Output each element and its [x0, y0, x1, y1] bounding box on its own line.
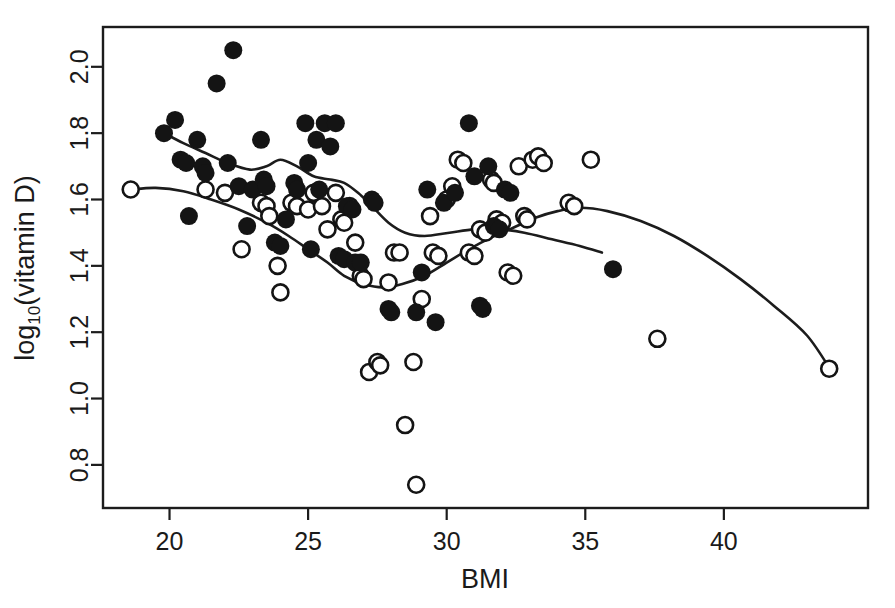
data-point-open: [347, 235, 363, 251]
data-point-filled: [177, 154, 195, 172]
data-point-open: [314, 198, 330, 214]
data-point-open: [198, 182, 214, 198]
data-point-open: [356, 271, 372, 287]
data-point-open: [372, 357, 388, 373]
data-point-filled: [219, 154, 237, 172]
data-point-open: [583, 152, 599, 168]
data-point-filled: [460, 114, 478, 132]
data-point-filled: [310, 181, 328, 199]
data-point-filled: [366, 194, 384, 212]
data-point-open: [466, 248, 482, 264]
x-axis-title: BMI: [461, 564, 509, 594]
x-tick-label-40: 40: [710, 527, 738, 555]
y-tick-label-1.8: 1.8: [65, 116, 93, 151]
data-point-open: [320, 221, 336, 237]
data-point-filled: [446, 184, 464, 202]
data-point-filled: [413, 263, 431, 281]
data-point-filled: [166, 111, 184, 129]
data-point-filled: [238, 217, 256, 235]
x-tick-label-20: 20: [156, 527, 184, 555]
y-axis-tick-labels: 0.81.01.21.41.61.82.0: [65, 49, 93, 482]
data-point-filled: [296, 114, 314, 132]
data-point-open: [422, 208, 438, 224]
y-axis-title-main: log: [10, 325, 40, 361]
data-point-filled: [258, 177, 276, 195]
data-point-open: [328, 185, 344, 201]
data-point-filled: [327, 114, 345, 132]
data-point-filled: [321, 137, 339, 155]
trend-curve-open-loess: [131, 188, 832, 372]
y-tick-label-2.0: 2.0: [65, 49, 93, 84]
data-point-filled: [299, 154, 317, 172]
y-tick-label-1.2: 1.2: [65, 315, 93, 350]
data-point-open: [566, 198, 582, 214]
data-point-filled: [197, 164, 215, 182]
y-tick-label-1.4: 1.4: [65, 248, 93, 283]
data-point-filled: [474, 300, 492, 318]
data-point-open: [821, 361, 837, 377]
y-tick-label-0.8: 0.8: [65, 447, 93, 482]
data-point-open: [272, 284, 288, 300]
data-point-filled: [382, 303, 400, 321]
data-point-open: [270, 258, 286, 274]
data-point-filled: [252, 131, 270, 149]
y-tick-label-1.0: 1.0: [65, 381, 93, 416]
x-tick-label-30: 30: [433, 527, 461, 555]
svg-text:log10(vitamin D): log10(vitamin D): [10, 175, 44, 360]
plot-svg: 2025303540 0.81.01.21.41.61.82.0 BMI log…: [0, 0, 895, 608]
data-point-filled: [479, 157, 497, 175]
data-point-open: [649, 331, 665, 347]
data-point-filled: [288, 181, 306, 199]
data-point-filled: [302, 240, 320, 258]
x-axis-tick-labels: 2025303540: [156, 527, 738, 555]
data-point-open: [261, 208, 277, 224]
data-point-filled: [427, 313, 445, 331]
data-point-filled: [418, 181, 436, 199]
y-tick-label-1.6: 1.6: [65, 182, 93, 217]
plot-frame: [103, 27, 868, 508]
data-point-open: [397, 417, 413, 433]
y-axis-title-subscript: 10: [25, 306, 44, 325]
data-point-filled: [208, 74, 226, 92]
series-open-circles: [123, 148, 837, 492]
data-point-filled: [180, 207, 198, 225]
data-point-filled: [490, 220, 508, 238]
data-point-open: [408, 477, 424, 493]
data-point-open: [405, 354, 421, 370]
data-point-filled: [352, 254, 370, 272]
data-point-open: [505, 268, 521, 284]
data-point-filled: [271, 237, 289, 255]
y-axis-title: log10(vitamin D): [10, 175, 44, 360]
data-point-filled: [343, 200, 361, 218]
x-tick-label-25: 25: [294, 527, 322, 555]
data-point-open: [380, 274, 396, 290]
x-axis-ticks: [170, 508, 724, 520]
data-point-filled: [277, 210, 295, 228]
data-point-filled: [501, 184, 519, 202]
data-point-open: [536, 155, 552, 171]
data-point-filled: [188, 131, 206, 149]
x-tick-label-35: 35: [571, 527, 599, 555]
data-point-open: [455, 155, 471, 171]
data-point-open: [430, 248, 446, 264]
y-axis-title-rest: (vitamin D): [10, 175, 40, 306]
data-point-open: [234, 241, 250, 257]
vitamin-d-bmi-scatter-plot: 2025303540 0.81.01.21.41.61.82.0 BMI log…: [0, 0, 895, 608]
data-point-filled: [604, 260, 622, 278]
data-point-filled: [224, 41, 242, 59]
data-point-open: [392, 245, 408, 261]
data-point-open: [519, 211, 535, 227]
data-point-open: [123, 182, 139, 198]
data-point-filled: [407, 303, 425, 321]
